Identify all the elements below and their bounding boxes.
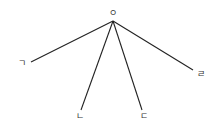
tree-diagram: ㅇ ㄱ ㄴ ㄷ ㄹ: [0, 0, 218, 124]
root-label: ㅇ: [109, 8, 117, 18]
leaf-label-digeut: ㄷ: [140, 111, 148, 121]
edges: [31, 21, 193, 110]
leaf-label-rieul: ㄹ: [197, 69, 205, 79]
leaf-label-nieun: ㄴ: [76, 111, 84, 121]
edge-root-to-digeut: [113, 21, 142, 110]
diagram-canvas: ㅇ ㄱ ㄴ ㄷ ㄹ: [0, 0, 218, 124]
edge-root-to-rieul: [113, 21, 193, 70]
leaf-label-giyeok: ㄱ: [18, 58, 26, 68]
